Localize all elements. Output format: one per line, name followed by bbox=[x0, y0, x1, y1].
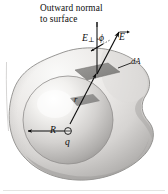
area-element-label: dA bbox=[131, 57, 141, 66]
vector-arrow-accent bbox=[119, 30, 124, 33]
charge-label: q bbox=[65, 137, 70, 147]
e-perpendicular-label: E⊥ bbox=[82, 33, 94, 45]
electric-field-label: E bbox=[119, 32, 125, 42]
figure-canvas bbox=[0, 0, 168, 194]
angle-phi-label: ϕ bbox=[99, 33, 104, 43]
caption-line-2: to surface bbox=[40, 14, 77, 24]
radius-label: R bbox=[50, 125, 56, 135]
e-perpendicular-subscript: ⊥ bbox=[88, 36, 95, 44]
caption-line-1: Outward normal bbox=[40, 3, 103, 13]
charged-sphere bbox=[23, 76, 113, 164]
distance-label: r bbox=[74, 95, 77, 104]
point-charge-marker bbox=[65, 128, 72, 135]
gauss-law-figure: Outward normal to surface E⊥ ϕ E dA R q … bbox=[0, 0, 168, 194]
